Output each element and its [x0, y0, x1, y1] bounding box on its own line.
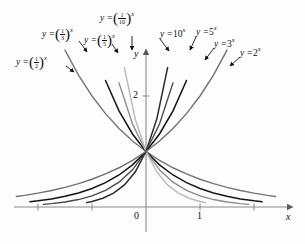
leader-three [205, 48, 214, 60]
label-three-exp: x [232, 36, 235, 43]
label-ten-lead: y = [160, 29, 173, 39]
leader-five [190, 37, 196, 50]
label-five-pow-x: y =5x [196, 26, 217, 38]
label-tenth-exp: x [131, 10, 134, 17]
exponential-functions-figure: y =(12)x y =(13)x y =(15)x y =(110)x y =… [0, 0, 305, 244]
label-half-lead: y = [16, 57, 29, 67]
label-five-exp: x [214, 24, 217, 31]
label-one-half: y =(12)x [16, 56, 47, 70]
leader-two [230, 57, 240, 66]
curve-0.3333 [106, 80, 263, 201]
label-two-pow-x: y =2x [240, 47, 261, 59]
curve-0.2 [119, 83, 249, 204]
label-three-pow-x: y =3x [214, 38, 235, 50]
label-ten-base: 10 [173, 29, 183, 39]
label-tenth-den: 10 [118, 18, 126, 26]
label-one-fifth: y =(15)x [84, 34, 115, 48]
label-two-lead: y = [240, 48, 253, 58]
origin-label: 0 [134, 210, 139, 221]
y-axis-label: y [134, 48, 138, 59]
curve-3 [30, 80, 187, 201]
label-two-exp: x [258, 45, 261, 52]
label-half-exp: x [44, 54, 47, 61]
leader-half [66, 66, 74, 72]
label-fifth-exp: x [112, 32, 115, 39]
label-fifth-lead: y = [84, 35, 97, 45]
label-ten-exp: x [183, 26, 186, 33]
label-three-lead: y = [214, 39, 227, 49]
y-tick-label-two: 2 [133, 89, 138, 100]
x-axis-label: x [286, 211, 290, 222]
curve-0.5 [65, 50, 276, 196]
curve-5 [43, 83, 173, 204]
label-third-exp: x [70, 26, 73, 33]
curve-2 [16, 50, 227, 196]
label-third-lead: y = [42, 29, 55, 39]
label-one-third: y =(13)x [42, 28, 73, 42]
axis-group [14, 54, 288, 232]
label-tenth-lead: y = [100, 13, 113, 23]
label-ten-pow-x: y =10x [160, 28, 185, 40]
label-five-lead: y = [196, 27, 209, 37]
x-tick-label-one: 1 [197, 210, 202, 221]
label-one-tenth: y =(110)x [100, 12, 134, 26]
leader-ten [160, 39, 169, 51]
